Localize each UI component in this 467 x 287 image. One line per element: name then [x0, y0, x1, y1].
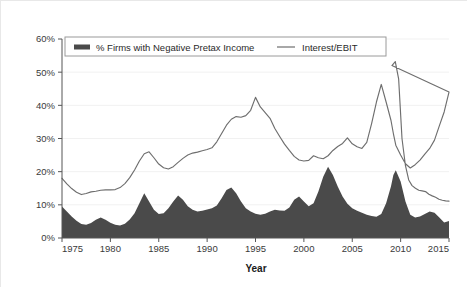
x-tick-label-2015: 2015 [428, 243, 449, 254]
chart-legend: % Firms with Negative Pretax Income Inte… [65, 37, 386, 56]
y-tick-label-20: 20% [36, 166, 56, 177]
y-tick-label-0: 0% [41, 232, 55, 243]
x-tick-label-1980: 1980 [100, 243, 121, 254]
legend-label-negative-pretax-income: % Firms with Negative Pretax Income [96, 42, 254, 53]
y-tick-label-50: 50% [36, 67, 56, 78]
x-axis-tick-labels: 197519801985199019952000200520102015 [62, 243, 449, 254]
legend-swatch-negative-pretax-income [74, 45, 90, 50]
y-tick-label-10: 10% [36, 199, 56, 210]
chart-canvas: 0%10%20%30%40%50%60% 1975198019851990199… [1, 1, 467, 287]
y-tick-label-30: 30% [36, 133, 56, 144]
x-tick-label-1990: 1990 [197, 243, 218, 254]
x-axis-title: Year [245, 263, 266, 274]
y-tick-label-60: 60% [36, 33, 56, 44]
y-tick-label-40: 40% [36, 100, 56, 111]
x-tick-label-1985: 1985 [148, 243, 169, 254]
legend-label-interest-ebit: Interest/EBIT [302, 42, 358, 53]
x-tick-label-1975: 1975 [62, 243, 83, 254]
x-tick-label-1995: 1995 [245, 243, 266, 254]
x-tick-label-2010: 2010 [390, 243, 411, 254]
x-tick-label-2005: 2005 [342, 243, 363, 254]
x-tick-label-2000: 2000 [293, 243, 314, 254]
chart-figure: 0%10%20%30%40%50%60% 1975198019851990199… [0, 0, 467, 287]
